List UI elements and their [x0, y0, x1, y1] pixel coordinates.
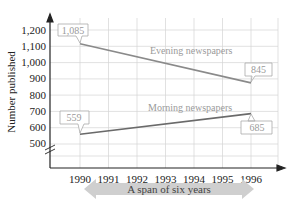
y-tick: 800	[30, 89, 47, 101]
y-tick: 900	[30, 72, 47, 84]
line-chart: 1,200 1,100 1,000 900 800 700 600 500 Nu…	[0, 0, 290, 199]
svg-text:685: 685	[250, 122, 265, 133]
callout-morning-end: 685	[241, 114, 272, 134]
svg-text:1,085: 1,085	[62, 25, 85, 36]
span-label: A span of six years	[127, 183, 211, 195]
y-tick: 1,100	[21, 40, 46, 52]
svg-text:559: 559	[67, 112, 82, 123]
y-tick: 1,000	[21, 56, 46, 68]
morning-series-label: Morning newspapers	[148, 102, 232, 113]
callout-evening-start: 1,085	[58, 24, 88, 43]
y-tick: 700	[30, 105, 47, 117]
grid	[50, 18, 278, 168]
evening-series-label: Evening newspapers	[150, 45, 233, 56]
y-axis-label: Number published	[5, 51, 17, 133]
y-tick: 500	[30, 137, 47, 149]
y-tick: 1,200	[21, 24, 46, 36]
x-tick: 1990	[69, 173, 92, 185]
y-tick: 600	[30, 121, 47, 133]
callout-morning-start: 559	[60, 111, 89, 133]
y-tick-labels: 1,200 1,100 1,000 900 800 700 600 500	[21, 24, 46, 149]
svg-text:845: 845	[251, 64, 266, 75]
